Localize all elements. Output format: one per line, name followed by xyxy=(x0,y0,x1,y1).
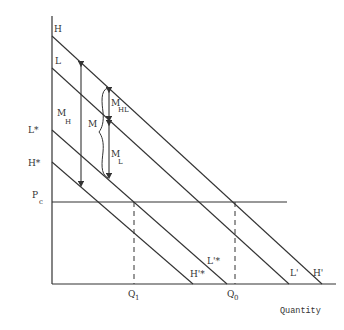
demand-curve-diagram: H L L* H* P c M H M M HL M L H'* L'* L' … xyxy=(0,0,344,330)
label-MH: M xyxy=(57,108,66,118)
label-H-prime: H' xyxy=(313,268,323,278)
label-H-prime-star: H'* xyxy=(190,269,205,279)
x-axis-label: Quantity xyxy=(280,306,321,316)
label-ML-sub: L xyxy=(118,158,123,166)
label-Pc: P xyxy=(32,190,38,200)
label-H: H xyxy=(54,24,62,34)
label-Pc-sub: c xyxy=(39,198,43,206)
line-H-star xyxy=(52,162,193,284)
label-H-star: H* xyxy=(28,158,41,168)
label-MH-sub: H xyxy=(65,118,71,126)
label-L-prime: L' xyxy=(290,268,298,278)
curly-brace xyxy=(99,88,108,178)
label-Q0-sub: 0 xyxy=(234,294,238,302)
line-L xyxy=(52,68,289,284)
label-Q1-sub: 1 xyxy=(135,294,139,302)
diagram-svg: H L L* H* P c M H M M HL M L H'* L'* L' … xyxy=(0,0,344,330)
label-L: L xyxy=(55,56,61,66)
label-MHL-sub: HL xyxy=(118,106,129,114)
line-L-star xyxy=(52,130,227,284)
label-L-prime-star: L'* xyxy=(207,256,220,266)
line-H xyxy=(52,36,322,284)
label-M: M xyxy=(88,119,97,129)
label-L-star: L* xyxy=(28,125,39,135)
